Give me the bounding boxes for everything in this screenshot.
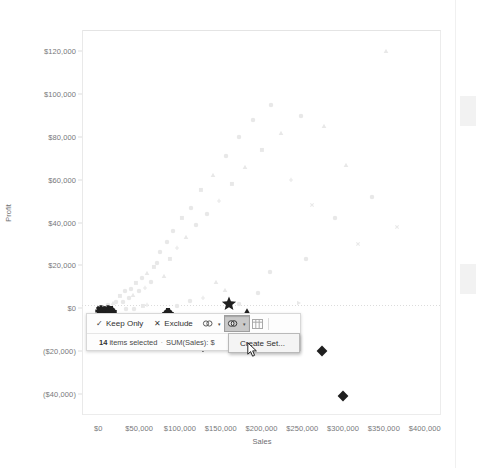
view-data-icon[interactable] (250, 316, 265, 331)
exclude-button[interactable]: ✕ Exclude (151, 318, 195, 329)
app-root: $120,000$100,000$80,000$60,000$40,000$20… (0, 0, 490, 468)
keep-only-button[interactable]: ✓ Keep Only (93, 318, 146, 329)
selected-count: 14 (99, 338, 107, 347)
zero-reference-line (82, 305, 441, 306)
y-tick-label: ($20,000) (43, 346, 76, 355)
y-tick-label: $60,000 (48, 175, 76, 184)
mouse-cursor (247, 342, 259, 362)
sum-sales-measure: SUM(Sales): $ (166, 338, 215, 347)
panel-right-border (455, 0, 456, 468)
create-set-control[interactable]: ▾ (224, 315, 250, 332)
check-icon: ✓ (96, 320, 103, 328)
y-tick-mark (78, 222, 82, 223)
tooltip-icon-group: ▾ ▾ (200, 315, 272, 332)
chevron-down-icon-set[interactable]: ▾ (240, 316, 249, 331)
edge-artifact-bottom (460, 264, 476, 294)
create-set-icon[interactable] (225, 316, 240, 331)
y-tick-mark (78, 393, 82, 394)
y-tick-mark (78, 308, 82, 309)
toolbar-divider (268, 318, 269, 330)
keep-only-label: Keep Only (106, 319, 143, 328)
y-axis-title: Profit (4, 204, 13, 222)
y-tick-mark (78, 265, 82, 266)
x-axis-title: Sales (253, 437, 272, 446)
y-tick-mark (78, 179, 82, 180)
group-members-control[interactable]: ▾ (200, 316, 224, 331)
x-tick-label: $350,000 (368, 424, 400, 433)
y-tick-label: $40,000 (48, 218, 76, 227)
y-tick-label: ($40,000) (43, 389, 76, 398)
y-tick-label: $120,000 (44, 47, 76, 56)
status-separator: · (160, 338, 163, 347)
y-tick-mark (78, 136, 82, 137)
x-tick-label: $300,000 (327, 424, 359, 433)
tooltip-actions-row: ✓ Keep Only ✕ Exclude ▾ (87, 314, 300, 334)
y-tick-mark (78, 51, 82, 52)
selected-count-label: items selected (109, 338, 157, 347)
x-tick-label: $200,000 (245, 424, 277, 433)
group-members-icon[interactable] (200, 316, 215, 331)
y-tick-label: $0 (67, 304, 76, 313)
y-tick-label: $80,000 (48, 132, 76, 141)
y-tick-mark (78, 94, 82, 95)
y-tick-label: $20,000 (48, 261, 76, 270)
x-tick-label: $100,000 (164, 424, 196, 433)
y-axis-ticks: $120,000$100,000$80,000$60,000$40,000$20… (0, 0, 76, 468)
y-tick-label: $100,000 (44, 90, 76, 99)
x-tick-label: $150,000 (205, 424, 237, 433)
exclude-label: Exclude (164, 319, 192, 328)
x-tick-label: $50,000 (125, 424, 153, 433)
x-tick-label: $250,000 (286, 424, 318, 433)
y-tick-mark (78, 350, 82, 351)
x-tick-label: $400,000 (409, 424, 441, 433)
close-icon: ✕ (154, 320, 161, 328)
plot-area[interactable] (82, 30, 441, 415)
x-tick-label: $0 (94, 424, 103, 433)
create-set-context-menu[interactable]: Create Set... (228, 333, 300, 353)
chevron-down-icon[interactable]: ▾ (215, 316, 224, 331)
y-axis-line (82, 30, 83, 415)
edge-artifact-top (460, 96, 476, 126)
